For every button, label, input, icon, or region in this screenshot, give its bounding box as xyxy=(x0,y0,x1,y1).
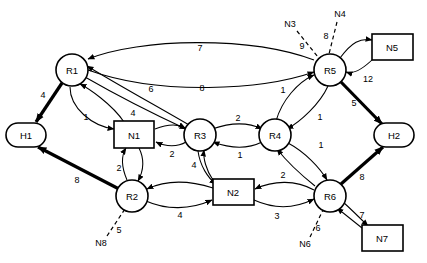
cost-label-R3-R1: 6 xyxy=(148,84,153,94)
node-label-R1: R1 xyxy=(66,65,78,76)
ext-node-label-N4: N4 xyxy=(334,9,346,19)
node-label-R6: R6 xyxy=(324,191,336,202)
link-N2-R2[interactable] xyxy=(147,182,213,189)
cost-label-N1-R2: 2 xyxy=(116,163,121,173)
node-label-H2: H2 xyxy=(388,130,400,141)
cost-label-ext-N8: 5 xyxy=(116,225,121,235)
link-R1-N1[interactable] xyxy=(70,87,114,129)
link-N2-R3[interactable] xyxy=(204,150,213,180)
link-N2-R6[interactable] xyxy=(254,199,314,207)
node-label-N5: N5 xyxy=(386,42,398,53)
node-R2[interactable]: R2 xyxy=(116,180,148,212)
node-N2[interactable]: N2 xyxy=(213,179,254,205)
node-label-N1: N1 xyxy=(128,130,140,141)
link-R3-R4[interactable] xyxy=(212,124,262,129)
link-N1-R2[interactable] xyxy=(122,148,127,180)
link-R6-R4[interactable] xyxy=(277,149,315,186)
ext-link-N4-R5 xyxy=(329,22,337,54)
node-label-H1: H1 xyxy=(20,130,32,141)
cost-label-R4-R3: 1 xyxy=(237,150,242,160)
network-diagram-canvas: 7 8 6 4 1 4 8 2 2 2 1 4 4 3 1 1 1 2 12 5… xyxy=(0,0,427,263)
cost-label-R4-R5: 1 xyxy=(280,85,285,95)
link-R2-N2[interactable] xyxy=(146,200,212,208)
link-R5-N5[interactable] xyxy=(340,40,372,58)
node-label-N7: N7 xyxy=(376,233,388,244)
node-N5[interactable]: N5 xyxy=(372,34,413,60)
cost-label-N2-R6: 3 xyxy=(274,211,279,221)
network-diagram: 7 8 6 4 1 4 8 2 2 2 1 4 4 3 1 1 1 2 12 5… xyxy=(0,0,427,263)
node-R1[interactable]: R1 xyxy=(56,54,88,86)
cost-label-R6-N7: 7 xyxy=(359,210,364,220)
cost-label-N5-R5: 12 xyxy=(363,74,373,84)
link-R4-R5[interactable] xyxy=(276,75,314,121)
link-R5-H2[interactable] xyxy=(341,82,382,124)
cost-label-R1-N1: 1 xyxy=(83,112,88,122)
cost-label-R3-R4: 2 xyxy=(235,113,240,123)
cost-label-R4-R6: 1 xyxy=(318,140,323,150)
link-R4-R3[interactable] xyxy=(213,142,262,147)
node-label-N2: N2 xyxy=(227,187,239,198)
cost-label-ext-N3: 9 xyxy=(299,41,304,51)
link-N7-R6[interactable] xyxy=(337,208,362,228)
ext-node-label-N6: N6 xyxy=(299,239,311,249)
cost-label-ext-N4: 8 xyxy=(323,31,328,41)
cost-label-R6-H2: 8 xyxy=(359,172,364,182)
cost-label-R5-R4: 1 xyxy=(317,112,322,122)
node-N7[interactable]: N7 xyxy=(362,225,403,251)
node-label-R5: R5 xyxy=(324,65,336,76)
link-R2-N1[interactable] xyxy=(138,148,143,181)
cost-label-R5-H2: 5 xyxy=(351,98,356,108)
cost-label-R1-R3: 4 xyxy=(130,108,135,118)
cost-label-R2-H1: 8 xyxy=(74,175,79,185)
cost-label-N1-R3: 2 xyxy=(169,149,174,159)
cost-label-R3-N2: 4 xyxy=(191,160,196,170)
link-R1-H1[interactable] xyxy=(36,83,62,122)
link-R6-N2[interactable] xyxy=(255,182,314,190)
node-R3[interactable]: R3 xyxy=(184,119,216,151)
link-R3-N1[interactable] xyxy=(156,142,186,146)
node-N1[interactable]: N1 xyxy=(114,121,154,148)
node-R5[interactable]: R5 xyxy=(314,54,346,86)
ext-node-label-N3: N3 xyxy=(284,19,296,29)
cost-label-R1-R5: 8 xyxy=(199,83,204,93)
link-N5-R5[interactable] xyxy=(346,58,374,72)
cost-label-ext-N6: 6 xyxy=(315,223,320,233)
link-N1-R3[interactable] xyxy=(155,125,185,129)
link-R5-R4[interactable] xyxy=(287,86,328,129)
cost-label-R1-H1: 4 xyxy=(40,90,45,100)
node-H2[interactable]: H2 xyxy=(374,123,414,147)
cost-label-R5-R1: 7 xyxy=(197,43,202,53)
node-R4[interactable]: R4 xyxy=(259,119,291,151)
node-label-R3: R3 xyxy=(194,130,206,141)
nodes-layer: R1 R2 R3 R4 R5 R6 xyxy=(6,9,414,251)
node-label-R4: R4 xyxy=(269,130,281,141)
node-label-R2: R2 xyxy=(126,191,138,202)
cost-label-N2-R2: 4 xyxy=(177,210,182,220)
cost-label-R6-R4: 2 xyxy=(280,170,285,180)
node-H1[interactable]: H1 xyxy=(6,123,46,147)
link-R3-R1[interactable] xyxy=(87,66,189,125)
node-R6[interactable]: R6 xyxy=(314,180,346,212)
ext-node-label-N8: N8 xyxy=(95,238,107,248)
